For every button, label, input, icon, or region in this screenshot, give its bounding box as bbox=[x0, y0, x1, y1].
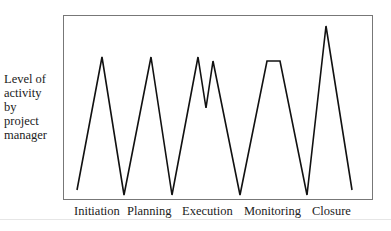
chart-plot-area bbox=[0, 0, 391, 231]
x-label-planning: Planning bbox=[127, 204, 171, 219]
x-label-initiation: Initiation bbox=[74, 204, 120, 219]
activity-line bbox=[77, 26, 352, 195]
x-label-monitoring: Monitoring bbox=[244, 204, 301, 219]
x-label-execution: Execution bbox=[182, 204, 233, 219]
bottom-divider bbox=[0, 219, 391, 220]
x-label-closure: Closure bbox=[312, 204, 351, 219]
